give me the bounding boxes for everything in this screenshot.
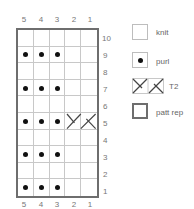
purl-dot-icon bbox=[39, 86, 44, 91]
chart-cell bbox=[34, 80, 50, 97]
chart-cell bbox=[18, 30, 34, 47]
col-number: 1 bbox=[82, 15, 98, 25]
row-number: 1 bbox=[103, 187, 115, 197]
chart-cell bbox=[81, 63, 97, 80]
row-number: 10 bbox=[102, 34, 114, 44]
t2-cross-icon bbox=[65, 113, 97, 130]
purl-dot-icon bbox=[39, 152, 44, 157]
col-number: 2 bbox=[66, 200, 82, 209]
chart-cell bbox=[50, 63, 66, 80]
purl-dot-icon bbox=[23, 86, 28, 91]
t2-symbol bbox=[132, 78, 164, 94]
purl-dot-icon bbox=[55, 185, 60, 190]
legend-t2-label: T2 bbox=[169, 82, 178, 92]
chart-cell bbox=[81, 80, 97, 97]
legend-knit-label: knit bbox=[156, 28, 168, 38]
row-number: 7 bbox=[103, 85, 115, 95]
chart-cell bbox=[65, 47, 81, 64]
chart-cell bbox=[50, 163, 66, 180]
chart-cell bbox=[34, 163, 50, 180]
chart-cell bbox=[65, 30, 81, 47]
chart-cell bbox=[18, 130, 34, 147]
purl-dot-icon bbox=[55, 119, 60, 124]
purl-dot-icon bbox=[39, 119, 44, 124]
col-number: 1 bbox=[82, 200, 98, 209]
chart-cell bbox=[81, 130, 97, 147]
chart-cell bbox=[81, 47, 97, 64]
chart-cell bbox=[50, 113, 66, 130]
legend-purl-label: purl bbox=[156, 57, 169, 67]
purl-dot-icon bbox=[39, 52, 44, 57]
purl-dot-icon bbox=[23, 119, 28, 124]
chart-cell bbox=[34, 96, 50, 113]
chart-cell bbox=[50, 47, 66, 64]
chart-cell bbox=[34, 113, 50, 130]
chart-cell bbox=[50, 130, 66, 147]
chart-cell bbox=[18, 113, 34, 130]
knitting-chart-grid bbox=[16, 28, 99, 198]
col-number: 4 bbox=[33, 200, 49, 209]
chart-cell bbox=[18, 96, 34, 113]
row-number: 8 bbox=[103, 68, 115, 78]
chart-cell bbox=[50, 80, 66, 97]
purl-dot-icon bbox=[23, 185, 28, 190]
chart-cell bbox=[18, 47, 34, 64]
chart-cell bbox=[18, 163, 34, 180]
patt-rep-symbol bbox=[132, 103, 148, 119]
chart-cell bbox=[18, 179, 34, 196]
col-number: 3 bbox=[49, 15, 65, 25]
chart-cell bbox=[50, 30, 66, 47]
chart-cell bbox=[81, 146, 97, 163]
col-number: 4 bbox=[33, 15, 49, 25]
knit-symbol bbox=[132, 24, 148, 40]
chart-cell bbox=[65, 96, 81, 113]
row-number: 9 bbox=[103, 51, 115, 61]
chart-cell bbox=[65, 63, 81, 80]
chart-cell bbox=[65, 80, 81, 97]
chart-cell bbox=[34, 146, 50, 163]
purl-dot-icon bbox=[55, 86, 60, 91]
legend-patt-rep-label: patt rep bbox=[156, 108, 183, 118]
chart-cell bbox=[65, 146, 81, 163]
col-number: 3 bbox=[49, 200, 65, 209]
chart-cell bbox=[65, 130, 81, 147]
row-number: 3 bbox=[103, 153, 115, 163]
purl-dot-icon bbox=[55, 152, 60, 157]
col-number: 5 bbox=[16, 200, 32, 209]
chart-cell bbox=[34, 47, 50, 64]
chart-cell bbox=[50, 179, 66, 196]
row-number: 6 bbox=[103, 102, 115, 112]
chart-cell bbox=[18, 63, 34, 80]
col-number: 5 bbox=[16, 15, 32, 25]
col-number: 2 bbox=[66, 15, 82, 25]
chart-cell bbox=[34, 30, 50, 47]
chart-cell bbox=[65, 163, 81, 180]
chart-cell bbox=[81, 163, 97, 180]
chart-cell bbox=[50, 96, 66, 113]
t2-cross-icon bbox=[132, 78, 164, 94]
chart-cell bbox=[81, 96, 97, 113]
purl-dot-icon bbox=[23, 152, 28, 157]
chart-cell bbox=[34, 179, 50, 196]
chart-cell bbox=[34, 63, 50, 80]
chart-cell bbox=[34, 130, 50, 147]
chart-cell bbox=[81, 30, 97, 47]
purl-dot-icon bbox=[138, 58, 143, 63]
chart-cell bbox=[18, 80, 34, 97]
purl-dot-icon bbox=[55, 52, 60, 57]
purl-symbol bbox=[132, 52, 148, 68]
chart-cell bbox=[81, 179, 97, 196]
row-number: 2 bbox=[103, 170, 115, 180]
purl-dot-icon bbox=[39, 185, 44, 190]
chart-cell bbox=[18, 146, 34, 163]
chart-cell bbox=[50, 146, 66, 163]
row-number: 4 bbox=[103, 136, 115, 146]
row-number: 5 bbox=[103, 119, 115, 129]
chart-cell bbox=[65, 179, 81, 196]
purl-dot-icon bbox=[23, 52, 28, 57]
